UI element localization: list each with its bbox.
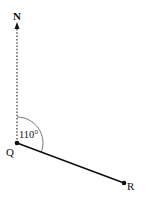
north-arrow-icon: [15, 22, 20, 29]
north-label: N: [13, 10, 21, 22]
line-qr: [17, 143, 124, 183]
bearing-diagram: N 110° Q R: [0, 0, 150, 200]
point-q-label: Q: [6, 146, 14, 158]
point-q: [15, 141, 20, 146]
angle-label: 110°: [19, 129, 39, 140]
point-r-label: R: [127, 180, 135, 192]
point-r: [122, 181, 127, 186]
